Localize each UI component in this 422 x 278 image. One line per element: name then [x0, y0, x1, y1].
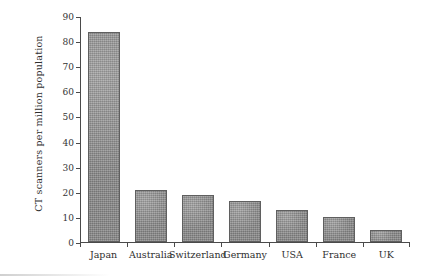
y-tick-mark: [76, 92, 81, 93]
bar-series: [80, 17, 410, 242]
y-tick-label: 10: [34, 213, 74, 223]
y-tick-mark: [76, 218, 81, 219]
bar: [229, 201, 261, 242]
y-tick-label: 50: [34, 112, 74, 122]
x-axis-category-label: France: [322, 249, 356, 260]
x-tick-mark: [127, 243, 128, 247]
bar: [88, 32, 120, 242]
y-tick-mark: [76, 42, 81, 43]
x-tick-mark: [221, 243, 222, 247]
bar-slot: [127, 17, 174, 242]
y-tick-label: 30: [34, 163, 74, 173]
x-tick-mark: [174, 243, 175, 247]
y-tick-label: 70: [34, 62, 74, 72]
bar-slot: [174, 17, 221, 242]
x-axis-category-label: USA: [281, 249, 302, 260]
y-tick-label: 90: [34, 12, 74, 22]
x-axis-category-label: Australia: [129, 249, 173, 260]
x-tick-mark: [269, 243, 270, 247]
bar-slot: [316, 17, 363, 242]
bar-slot: [80, 17, 127, 242]
y-tick-label: 40: [34, 138, 74, 148]
plot-area: 0102030405060708090: [80, 17, 410, 243]
bar: [323, 217, 355, 242]
x-axis-category-label: Switzerland: [169, 249, 227, 260]
y-tick-mark: [76, 193, 81, 194]
bar-slot: [363, 17, 410, 242]
x-axis-category-label: Japan: [90, 249, 117, 260]
y-tick-label: 0: [34, 238, 74, 248]
x-tick-mark: [80, 243, 81, 247]
x-axis-labels: JapanAustraliaSwitzerlandGermanyUSAFranc…: [80, 249, 410, 267]
bar: [370, 230, 402, 243]
x-tick-mark: [363, 243, 364, 247]
y-tick-label: 80: [34, 37, 74, 47]
x-tick-mark: [409, 243, 410, 247]
bar-chart: CT scanners per million population 01020…: [0, 0, 422, 278]
bar: [135, 190, 167, 243]
scan-artifact: [0, 274, 110, 276]
y-tick-mark: [76, 143, 81, 144]
y-tick-mark: [76, 67, 81, 68]
y-tick-label: 60: [34, 87, 74, 97]
y-tick-mark: [76, 168, 81, 169]
x-axis-category-label: Germany: [223, 249, 267, 260]
x-tick-mark: [316, 243, 317, 247]
bar: [276, 210, 308, 243]
x-axis-category-label: UK: [379, 249, 394, 260]
bar: [182, 195, 214, 243]
y-tick-label: 20: [34, 188, 74, 198]
y-tick-mark: [76, 17, 81, 18]
bar-slot: [269, 17, 316, 242]
bar-slot: [221, 17, 268, 242]
y-tick-mark: [76, 117, 81, 118]
